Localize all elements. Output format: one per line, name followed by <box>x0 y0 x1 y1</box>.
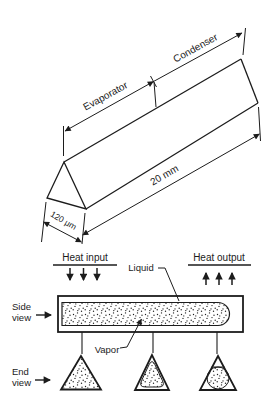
length-dimension-label: 20 mm <box>148 163 180 188</box>
end-view-group: End view <box>12 332 236 390</box>
micro-heat-pipe-figure: Evaporator Condenser 20 mm 120 μm Heat i… <box>0 0 274 411</box>
side-view-label: Side <box>12 301 31 312</box>
vapor-label: Vapor <box>95 344 120 355</box>
length-dimension-line <box>83 134 260 235</box>
prism-front-edge <box>86 103 258 209</box>
end-view-label: view <box>12 377 31 388</box>
divider-tick <box>151 76 157 87</box>
heat-output-group: Heat output <box>188 252 251 285</box>
side-view-label: view <box>12 312 31 323</box>
width-dimension-label: 120 μm <box>49 209 79 232</box>
vapor-core-circle <box>207 367 229 389</box>
vapor-core-rounded-triangle <box>141 362 164 387</box>
length-extension-line-right <box>259 107 261 141</box>
heat-input-label: Heat input <box>62 252 108 263</box>
end-view-triangle-evaporator <box>61 356 101 390</box>
extension-line-right <box>243 28 246 55</box>
prism-end-triangle <box>47 162 86 209</box>
side-view-group: Liquid Vapor Side view <box>12 262 243 355</box>
condenser-label: Condenser <box>171 31 220 65</box>
evaporator-label: Evaporator <box>81 79 130 113</box>
prism-far-end-edge <box>241 59 258 103</box>
heat-input-group: Heat input <box>53 252 117 280</box>
evaporator-condenser-dimension: Evaporator Condenser <box>64 28 246 156</box>
vapor-capsule <box>62 303 230 326</box>
width-dimension: 120 μm <box>42 202 82 242</box>
heat-output-label: Heat output <box>193 252 245 263</box>
prism-ridge-edge <box>64 59 241 162</box>
liquid-label: Liquid <box>128 262 153 273</box>
length-extension-line-left <box>82 213 85 244</box>
length-dimension: 20 mm <box>82 107 261 244</box>
end-view-label: End <box>12 366 29 377</box>
